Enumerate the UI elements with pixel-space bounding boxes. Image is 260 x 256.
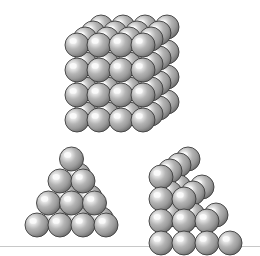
sphere-highlight xyxy=(114,88,121,94)
sphere-square-pyramid-front-12 xyxy=(25,213,49,237)
cubic-cluster-structure xyxy=(64,14,180,133)
sphere-cubic-cluster-52 xyxy=(65,58,89,82)
sphere-stepped-pyramid-angled-16 xyxy=(149,231,173,255)
sphere-square-pyramid-front-15 xyxy=(94,213,118,237)
sphere-highlight xyxy=(87,196,94,202)
sphere-highlight xyxy=(92,63,99,69)
sphere-stepped-pyramid-angled-17 xyxy=(172,231,196,255)
sphere-highlight xyxy=(53,174,60,180)
sphere-highlight xyxy=(41,196,48,202)
sphere-highlight xyxy=(92,113,99,119)
stepped-pyramid-angled-structure xyxy=(148,146,243,256)
sphere-highlight xyxy=(70,88,77,94)
sphere-cubic-cluster-60 xyxy=(65,108,89,132)
sphere-highlight xyxy=(223,236,230,242)
sphere-highlight xyxy=(70,38,77,44)
sphere-highlight xyxy=(177,192,184,198)
sphere-square-pyramid-front-7 xyxy=(48,169,72,193)
sphere-square-pyramid-front-14 xyxy=(71,213,95,237)
sphere-highlight xyxy=(136,88,143,94)
sphere-cubic-cluster-59 xyxy=(131,83,155,107)
sphere-highlight xyxy=(177,214,184,220)
sphere-square-pyramid-front-11 xyxy=(83,191,107,215)
sphere-square-pyramid-front-6 xyxy=(60,147,84,171)
sphere-highlight xyxy=(177,236,184,242)
square-pyramid-front-structure xyxy=(24,146,119,238)
sphere-highlight xyxy=(92,88,99,94)
sphere-highlight xyxy=(70,113,77,119)
sphere-stepped-pyramid-angled-18 xyxy=(195,231,219,255)
sphere-cubic-cluster-50 xyxy=(109,33,133,57)
square-pyramid-front-canvas xyxy=(24,146,119,238)
sphere-stepped-pyramid-angled-14 xyxy=(172,209,196,233)
sphere-stepped-pyramid-angled-11 xyxy=(149,187,173,211)
stepped-pyramid-angled-canvas xyxy=(148,146,243,256)
sphere-stepped-pyramid-angled-12 xyxy=(172,187,196,211)
sphere-cubic-cluster-53 xyxy=(87,58,111,82)
sphere-highlight xyxy=(76,174,83,180)
sphere-highlight xyxy=(114,38,121,44)
sphere-stepped-pyramid-angled-10 xyxy=(149,165,173,189)
sphere-highlight xyxy=(64,196,71,202)
sphere-highlight xyxy=(154,192,161,198)
sphere-cubic-cluster-48 xyxy=(65,33,89,57)
sphere-stepped-pyramid-angled-13 xyxy=(149,209,173,233)
sphere-cubic-cluster-51 xyxy=(131,33,155,57)
sphere-cubic-cluster-58 xyxy=(109,83,133,107)
sphere-highlight xyxy=(30,218,37,224)
sphere-highlight xyxy=(76,218,83,224)
sphere-square-pyramid-front-9 xyxy=(37,191,61,215)
cubic-cluster-canvas xyxy=(64,14,180,133)
sphere-highlight xyxy=(136,113,143,119)
sphere-highlight xyxy=(200,214,207,220)
sphere-highlight xyxy=(154,236,161,242)
sphere-square-pyramid-front-13 xyxy=(48,213,72,237)
sphere-highlight xyxy=(154,214,161,220)
sphere-cubic-cluster-54 xyxy=(109,58,133,82)
sphere-highlight xyxy=(99,218,106,224)
sphere-highlight xyxy=(114,113,121,119)
sphere-cubic-cluster-57 xyxy=(87,83,111,107)
sphere-highlight xyxy=(53,218,60,224)
sphere-highlight xyxy=(154,170,161,176)
sphere-cubic-cluster-61 xyxy=(87,108,111,132)
sphere-cubic-cluster-56 xyxy=(65,83,89,107)
sphere-stepped-pyramid-angled-15 xyxy=(195,209,219,233)
sphere-highlight xyxy=(92,38,99,44)
sphere-cubic-cluster-55 xyxy=(131,58,155,82)
sphere-highlight xyxy=(70,63,77,69)
sphere-cubic-cluster-63 xyxy=(131,108,155,132)
sphere-highlight xyxy=(136,38,143,44)
sphere-square-pyramid-front-10 xyxy=(60,191,84,215)
sphere-highlight xyxy=(136,63,143,69)
sphere-stepped-pyramid-angled-19 xyxy=(218,231,242,255)
sphere-cubic-cluster-62 xyxy=(109,108,133,132)
sphere-highlight xyxy=(200,236,207,242)
sphere-cubic-cluster-49 xyxy=(87,33,111,57)
sphere-highlight xyxy=(114,63,121,69)
sphere-square-pyramid-front-8 xyxy=(71,169,95,193)
sphere-highlight xyxy=(64,152,71,158)
